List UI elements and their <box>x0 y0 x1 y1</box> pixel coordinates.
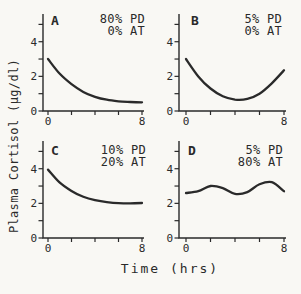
y-tick-label: 4 <box>30 163 37 176</box>
x-tick-label: 8 <box>281 242 288 255</box>
panel-annotation-d: 5% PD 80% AT <box>238 144 283 168</box>
x-tick-label: 8 <box>281 115 288 128</box>
annotation-line: 20% AT <box>101 156 146 168</box>
y-tick-label: 0 <box>166 105 173 118</box>
y-tick-label: 4 <box>30 36 37 49</box>
panel-label-b: B <box>191 14 199 28</box>
y-tick-label: 2 <box>30 197 37 210</box>
x-tick-label: 0 <box>183 115 190 128</box>
curve-A <box>48 59 142 102</box>
x-axis-title: Time (hrs) <box>121 261 219 276</box>
annotation-line: 0% AT <box>244 25 282 37</box>
y-axis-title: Plasma Cortisol (μg/dl) <box>7 59 21 233</box>
panel-label-d: D <box>188 144 196 158</box>
panel-annotation-a: 80% PD 0% AT <box>100 13 145 37</box>
curve-D <box>186 182 284 194</box>
y-tick-label: 4 <box>166 163 173 176</box>
y-tick-label: 2 <box>166 197 173 210</box>
annotation-line: 0% AT <box>100 25 145 37</box>
panel-annotation-b: 5% PD 0% AT <box>244 13 282 37</box>
y-tick-label: 0 <box>30 105 37 118</box>
y-tick-label: 2 <box>30 70 37 83</box>
panel-label-a: A <box>51 14 59 28</box>
curve-B <box>186 59 284 100</box>
x-tick-label: 0 <box>45 242 52 255</box>
curve-C <box>48 170 142 204</box>
figure: 02408024080240802408 A 80% PD 0% AT B 5%… <box>0 0 301 294</box>
x-tick-label: 8 <box>139 115 146 128</box>
x-tick-label: 8 <box>139 242 146 255</box>
y-tick-label: 0 <box>166 232 173 245</box>
panel-label-c: C <box>51 144 59 158</box>
x-tick-label: 0 <box>183 242 190 255</box>
y-tick-label: 2 <box>166 70 173 83</box>
panel-annotation-c: 10% PD 20% AT <box>101 144 146 168</box>
x-tick-label: 0 <box>45 115 52 128</box>
y-tick-label: 0 <box>30 232 37 245</box>
annotation-line: 80% AT <box>238 156 283 168</box>
y-tick-label: 4 <box>166 36 173 49</box>
